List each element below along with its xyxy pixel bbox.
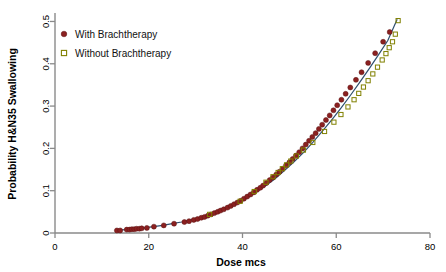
data-point-with-brachtherapy	[335, 103, 340, 108]
x-tick-label: 0	[52, 241, 57, 252]
data-point-with-brachtherapy	[353, 77, 358, 82]
data-point-without-brachtherapy	[380, 58, 384, 62]
data-point-without-brachtherapy	[339, 112, 343, 116]
data-point-with-brachtherapy	[327, 113, 332, 118]
data-point-with-brachtherapy	[118, 228, 123, 233]
series-points-with-brachtherapy	[114, 30, 392, 233]
data-point-with-brachtherapy	[331, 108, 336, 113]
data-point-with-brachtherapy	[339, 97, 344, 102]
y-axis-title: Probability H&N35 Swallowing	[6, 48, 18, 200]
y-tick-label: 0.4	[40, 57, 51, 70]
data-point-without-brachtherapy	[346, 105, 350, 109]
data-point-with-brachtherapy	[387, 30, 392, 35]
series-points-without-brachtherapy	[208, 19, 401, 217]
y-tick-label: 0.1	[40, 184, 51, 197]
y-tick-label: 0	[40, 230, 51, 235]
data-point-without-brachtherapy	[384, 52, 388, 56]
data-point-with-brachtherapy	[359, 70, 364, 75]
data-point-without-brachtherapy	[366, 79, 370, 83]
data-point-with-brachtherapy	[316, 126, 321, 131]
data-point-with-brachtherapy	[343, 91, 348, 96]
x-tick-label: 80	[425, 241, 436, 252]
data-point-with-brachtherapy	[182, 220, 187, 225]
y-tick-label: 0.5	[40, 15, 51, 28]
chart-container: 02040608000.10.20.30.40.5 With Brachther…	[0, 0, 446, 272]
data-point-with-brachtherapy	[187, 219, 192, 224]
data-point-with-brachtherapy	[348, 85, 353, 90]
data-point-with-brachtherapy	[139, 226, 144, 231]
data-point-without-brachtherapy	[375, 65, 379, 69]
data-point-without-brachtherapy	[393, 32, 397, 36]
data-point-without-brachtherapy	[352, 98, 356, 102]
data-point-with-brachtherapy	[313, 131, 318, 136]
data-point-with-brachtherapy	[161, 223, 166, 228]
legend-marker-filled-circle	[61, 31, 67, 37]
data-point-without-brachtherapy	[332, 120, 336, 124]
data-point-with-brachtherapy	[373, 51, 378, 56]
data-point-without-brachtherapy	[387, 46, 391, 50]
data-point-with-brachtherapy	[172, 221, 177, 226]
data-point-with-brachtherapy	[366, 60, 371, 65]
legend-marker-open-square	[61, 50, 66, 55]
x-tick-label: 60	[331, 241, 342, 252]
data-point-without-brachtherapy	[361, 85, 365, 89]
data-point-without-brachtherapy	[390, 40, 394, 44]
x-tick-label: 20	[143, 241, 154, 252]
x-tick-label: 40	[237, 241, 248, 252]
data-point-without-brachtherapy	[371, 72, 375, 76]
scatter-plot: 02040608000.10.20.30.40.5 With Brachther…	[0, 0, 446, 272]
legend-label: With Brachtherapy	[75, 29, 157, 40]
data-point-with-brachtherapy	[151, 224, 156, 229]
legend: With BrachtherapyWithout Brachtherapy	[61, 29, 171, 59]
legend-label: Without Brachtherapy	[75, 48, 171, 59]
data-point-with-brachtherapy	[381, 39, 386, 44]
data-point-with-brachtherapy	[323, 118, 328, 123]
data-point-without-brachtherapy	[357, 91, 361, 95]
x-axis-title: Dose mcs	[216, 256, 266, 268]
data-point-with-brachtherapy	[144, 225, 149, 230]
data-point-with-brachtherapy	[320, 122, 325, 127]
y-tick-label: 0.3	[40, 99, 51, 112]
y-tick-label: 0.2	[40, 142, 51, 155]
